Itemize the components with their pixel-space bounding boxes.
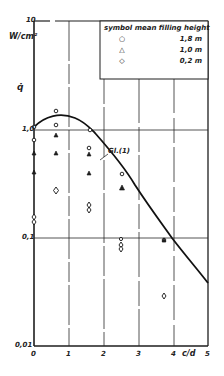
diamond-icon: ◇ [118,57,126,65]
legend-row-0-2m: ◇ 0,2 m [100,57,208,66]
x-tick-4: 4 [171,350,176,358]
x-tick-5: 5 [205,350,210,358]
y-tick-1: 1,0 [22,125,34,133]
y-tick-0-01: 0,01 [15,341,32,349]
x-tick-2: 2 [101,350,106,358]
series-0-2m [32,187,166,299]
x-tick-3: 3 [136,350,141,358]
circle-icon: ○ [118,35,126,43]
series-1-0m [32,133,166,242]
curve-label: Gl.(1) [108,147,130,155]
y-tick-10: 10 [26,16,36,24]
y-unit-label: W/cm² [9,32,37,41]
x-tick-0: 0 [31,350,36,358]
curve-gl1 [34,115,208,283]
x-tick-1: 1 [66,350,71,358]
legend: symbol mean filling height ○ 1,8 m △ 1,0… [100,22,208,79]
x-axis-label: c/d [182,349,195,358]
y-tick-0-1: 0,1 [22,233,34,241]
y-axis-symbol: q̇ [17,82,23,92]
legend-row-1-0m: △ 1,0 m [100,46,208,55]
triangle-icon: △ [118,46,126,54]
series-1-8m [32,109,166,242]
legend-row-1-8m: ○ 1,8 m [100,35,208,44]
legend-header: symbol mean filling height [104,24,209,32]
